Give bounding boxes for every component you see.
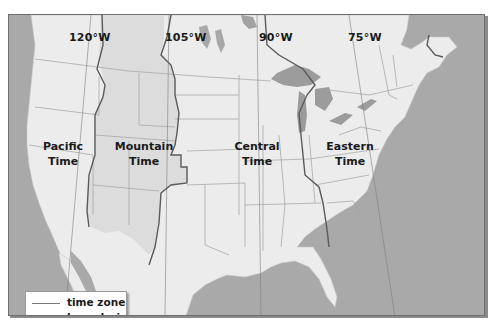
longitude-label-75w: 75°W — [348, 31, 382, 44]
longitude-label-105w: 105°W — [165, 31, 207, 44]
zone-label-line2: Time — [324, 154, 376, 169]
zone-label-line2: Time — [231, 154, 283, 169]
frame-shadow-right — [485, 16, 488, 318]
zone-label-line1: Central — [231, 139, 283, 154]
frame-shadow-bottom — [10, 316, 488, 318]
zone-label-line1: Pacific — [37, 139, 89, 154]
map-legend: time zone boundaries — [25, 291, 127, 316]
zone-label-eastern: Eastern Time — [324, 139, 376, 169]
legend-line-swatch — [32, 303, 60, 304]
longitude-label-90w: 90°W — [259, 31, 293, 44]
zone-label-line1: Eastern — [324, 139, 376, 154]
zone-label-line2: Time — [111, 154, 177, 169]
legend-line1: time zone — [67, 295, 133, 310]
map-frame: 120°W 105°W 90°W 75°W Pacific Time Mount… — [8, 14, 485, 316]
legend-text: time zone boundaries — [67, 295, 133, 316]
zone-label-pacific: Pacific Time — [37, 139, 89, 169]
zone-label-central: Central Time — [231, 139, 283, 169]
zone-label-mountain: Mountain Time — [111, 139, 177, 169]
zone-label-line2: Time — [37, 154, 89, 169]
longitude-label-120w: 120°W — [69, 31, 111, 44]
zone-label-line1: Mountain — [111, 139, 177, 154]
